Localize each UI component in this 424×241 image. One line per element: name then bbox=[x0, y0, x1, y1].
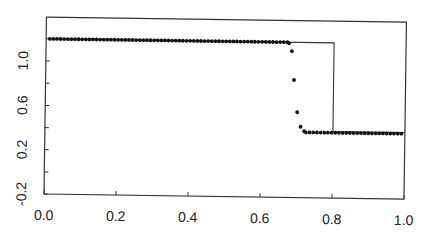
data-point bbox=[120, 38, 124, 42]
data-point bbox=[167, 39, 171, 43]
data-point bbox=[290, 49, 294, 53]
data-point bbox=[278, 40, 282, 44]
data-point bbox=[73, 37, 77, 41]
data-point bbox=[84, 37, 88, 41]
chart: 0.00.20.40.60.81.0-0.20.20.61.0 bbox=[0, 0, 424, 241]
data-point bbox=[91, 38, 95, 42]
plot-group: 0.00.20.40.60.81.0-0.20.20.61.0 bbox=[13, 17, 417, 229]
y-tick-label: 0.6 bbox=[14, 95, 30, 115]
data-point bbox=[48, 37, 52, 41]
data-point bbox=[87, 37, 91, 41]
data-point bbox=[228, 39, 232, 43]
data-point bbox=[322, 131, 326, 135]
data-point bbox=[235, 40, 239, 44]
data-point bbox=[299, 125, 303, 129]
data-point bbox=[98, 38, 102, 42]
data-point bbox=[217, 39, 221, 43]
exact-line bbox=[45, 39, 406, 133]
data-point bbox=[145, 38, 149, 42]
data-point bbox=[177, 39, 181, 43]
data-point bbox=[249, 40, 253, 44]
data-point bbox=[275, 40, 279, 44]
data-point bbox=[210, 39, 214, 43]
data-point bbox=[271, 40, 275, 44]
data-point bbox=[69, 37, 73, 41]
data-point bbox=[257, 40, 261, 44]
data-point bbox=[246, 40, 250, 44]
data-point bbox=[260, 40, 264, 44]
y-tick-label: 1.0 bbox=[15, 51, 31, 71]
data-point bbox=[113, 38, 117, 42]
x-axis: 0.00.20.40.60.81.0 bbox=[34, 190, 414, 228]
data-point bbox=[282, 40, 286, 44]
data-point bbox=[80, 37, 84, 41]
data-point bbox=[199, 39, 203, 43]
data-point bbox=[221, 39, 225, 43]
data-point bbox=[264, 40, 268, 44]
plot-border bbox=[44, 17, 406, 199]
data-point bbox=[224, 39, 228, 43]
data-point bbox=[239, 40, 243, 44]
data-point bbox=[109, 38, 113, 42]
data-point bbox=[319, 131, 323, 135]
data-point bbox=[267, 40, 271, 44]
data-point bbox=[116, 38, 120, 42]
data-point bbox=[170, 39, 174, 43]
data-point bbox=[195, 39, 199, 43]
x-tick-label: 1.0 bbox=[394, 212, 414, 228]
data-point bbox=[138, 38, 142, 42]
data-point bbox=[51, 37, 55, 41]
data-point bbox=[141, 38, 145, 42]
data-point bbox=[163, 39, 167, 43]
data-point bbox=[326, 131, 330, 135]
data-point bbox=[62, 37, 66, 41]
x-tick-label: 0.2 bbox=[106, 208, 126, 224]
data-point bbox=[181, 39, 185, 43]
data-point bbox=[213, 39, 217, 43]
data-point bbox=[315, 131, 319, 135]
data-point bbox=[105, 38, 109, 42]
numerical-solution-dots bbox=[47, 37, 405, 136]
data-point bbox=[55, 37, 59, 41]
data-point bbox=[77, 37, 81, 41]
y-tick-label: -0.2 bbox=[13, 181, 29, 206]
data-point bbox=[152, 38, 156, 42]
data-point bbox=[131, 38, 135, 42]
data-point bbox=[127, 38, 131, 42]
x-tick-label: 0.0 bbox=[34, 207, 54, 223]
exact-solution-line bbox=[45, 39, 406, 133]
plot-frame bbox=[44, 17, 406, 199]
data-point bbox=[156, 38, 160, 42]
data-point bbox=[102, 38, 106, 42]
data-point bbox=[206, 39, 210, 43]
data-point bbox=[311, 131, 315, 135]
data-point bbox=[192, 39, 196, 43]
x-tick-label: 0.4 bbox=[178, 209, 198, 225]
data-point bbox=[123, 38, 127, 42]
data-point bbox=[66, 37, 70, 41]
data-point bbox=[292, 78, 296, 82]
data-point bbox=[149, 38, 153, 42]
x-tick-label: 0.6 bbox=[250, 210, 270, 226]
data-point bbox=[295, 110, 299, 114]
data-point bbox=[231, 40, 235, 44]
data-point bbox=[59, 37, 63, 41]
x-tick-label: 0.8 bbox=[322, 211, 342, 227]
data-point bbox=[134, 38, 138, 42]
data-point bbox=[188, 39, 192, 43]
data-point bbox=[174, 39, 178, 43]
data-point bbox=[185, 39, 189, 43]
data-point bbox=[308, 130, 312, 134]
data-point bbox=[242, 40, 246, 44]
data-point bbox=[159, 38, 163, 42]
data-point bbox=[203, 39, 207, 43]
data-point bbox=[95, 38, 99, 42]
y-tick-label: 0.2 bbox=[13, 139, 29, 159]
data-point bbox=[253, 40, 257, 44]
